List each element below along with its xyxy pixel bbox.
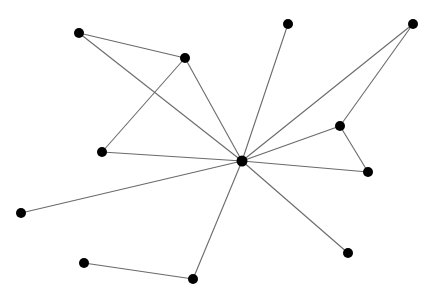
graph-edge-F-hub [242, 126, 340, 161]
graph-node-H [16, 208, 26, 218]
graph-edge-C-hub [102, 152, 242, 161]
graph-edge-J-K [84, 263, 193, 279]
graph-edge-B-hub [185, 58, 242, 161]
graph-edge-B-C [102, 58, 185, 152]
graph-edge-D-hub [242, 24, 288, 161]
graph-node-A [74, 28, 84, 38]
graph-canvas [0, 0, 427, 299]
graph-edge-E-F [340, 24, 413, 126]
graph-edge-I-hub [242, 161, 348, 253]
graph-edge-E-hub [242, 24, 413, 161]
graph-node-hub [237, 156, 248, 167]
edges-layer [21, 24, 413, 279]
graph-node-F [335, 121, 345, 131]
graph-node-D [283, 19, 293, 29]
graph-node-J [79, 258, 89, 268]
graph-node-I [343, 248, 353, 258]
network-graph [0, 0, 427, 299]
graph-node-E [408, 19, 418, 29]
graph-node-C [97, 147, 107, 157]
graph-edge-H-hub [21, 161, 242, 213]
graph-edge-F-G [340, 126, 368, 172]
graph-node-K [188, 274, 198, 284]
nodes-layer [16, 19, 418, 284]
graph-edge-G-hub [242, 161, 368, 172]
graph-edge-K-hub [193, 161, 242, 279]
graph-node-B [180, 53, 190, 63]
graph-node-G [363, 167, 373, 177]
